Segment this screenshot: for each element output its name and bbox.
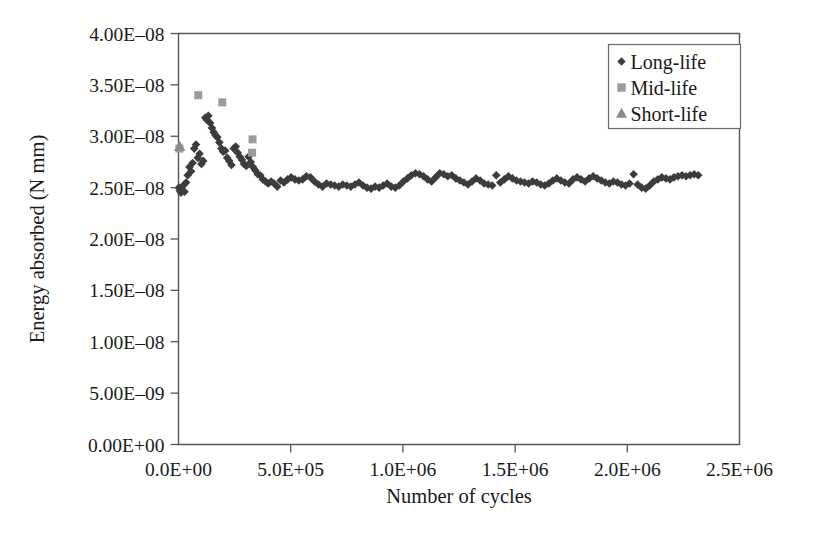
y-tick-label: 2.00E–08 <box>89 229 164 250</box>
x-tick-label: 0.0E+00 <box>145 459 212 480</box>
y-axis-ticks: 0.00E+005.00E–091.00E–081.50E–082.00E–08… <box>88 24 179 456</box>
y-tick-label: 1.50E–08 <box>89 280 164 301</box>
legend-label: Short-life <box>631 103 708 125</box>
diamond-marker <box>492 171 501 180</box>
y-tick-label: 5.00E–09 <box>89 383 164 404</box>
y-tick-label: 4.00E–08 <box>89 24 164 45</box>
square-marker <box>218 98 226 106</box>
y-tick-label: 0.00E+00 <box>88 435 165 456</box>
legend-label: Long-life <box>631 51 707 74</box>
square-marker <box>617 83 625 91</box>
square-marker <box>248 149 256 157</box>
chart-legend: Long-lifeMid-lifeShort-life <box>609 45 741 129</box>
x-tick-label: 1.0E+06 <box>370 459 437 480</box>
x-axis-ticks: 0.0E+005.0E+051.0E+061.5E+062.0E+062.5E+… <box>145 445 773 480</box>
square-marker <box>249 135 257 143</box>
y-tick-label: 3.50E–08 <box>89 75 164 96</box>
x-tick-label: 5.0E+05 <box>257 459 324 480</box>
legend-item-long-life[interactable]: Long-life <box>617 51 706 74</box>
x-tick-label: 2.5E+06 <box>706 459 773 480</box>
legend-item-short-life[interactable]: Short-life <box>616 103 707 125</box>
chart-figure: 0.00E+005.00E–091.00E–081.50E–082.00E–08… <box>0 0 814 545</box>
y-tick-label: 2.50E–08 <box>89 178 164 199</box>
x-tick-label: 2.0E+06 <box>594 459 661 480</box>
series-mid-life <box>175 91 256 157</box>
diamond-marker <box>629 170 638 179</box>
y-axis-title: Energy absorbed (N mm) <box>26 135 49 344</box>
y-tick-label: 1.00E–08 <box>89 332 164 353</box>
x-tick-label: 1.5E+06 <box>482 459 549 480</box>
energy-absorbed-scatter-chart: 0.00E+005.00E–091.00E–081.50E–082.00E–08… <box>0 0 814 545</box>
legend-label: Mid-life <box>631 77 698 99</box>
x-axis-title: Number of cycles <box>386 485 532 508</box>
y-tick-label: 3.00E–08 <box>89 126 164 147</box>
square-marker <box>194 91 202 99</box>
